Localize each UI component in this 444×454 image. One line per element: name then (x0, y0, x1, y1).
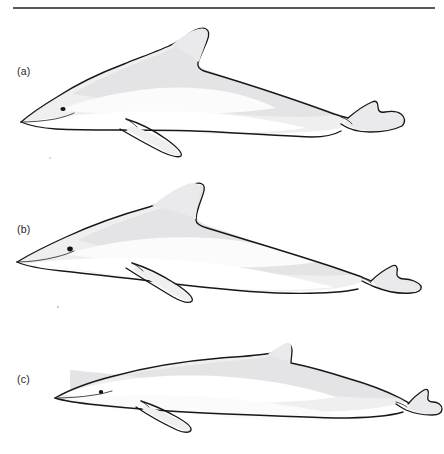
paper-speck-b (57, 306, 59, 308)
eye-c (99, 390, 103, 394)
paper-speck-a (49, 157, 51, 159)
dolphin-illustration-a (0, 18, 444, 168)
header-rule (13, 7, 435, 9)
dolphin-illustration-c (0, 340, 444, 454)
eye-b (67, 247, 73, 252)
figure-page: (a) (0, 0, 444, 454)
figure-panel-c: (c) (0, 340, 444, 454)
figure-panel-a: (a) (0, 18, 444, 168)
dolphin-illustration-b (0, 174, 444, 334)
fluke-fill-a (344, 102, 404, 131)
figure-panel-b: (b) (0, 174, 444, 334)
eye-a (60, 107, 65, 111)
